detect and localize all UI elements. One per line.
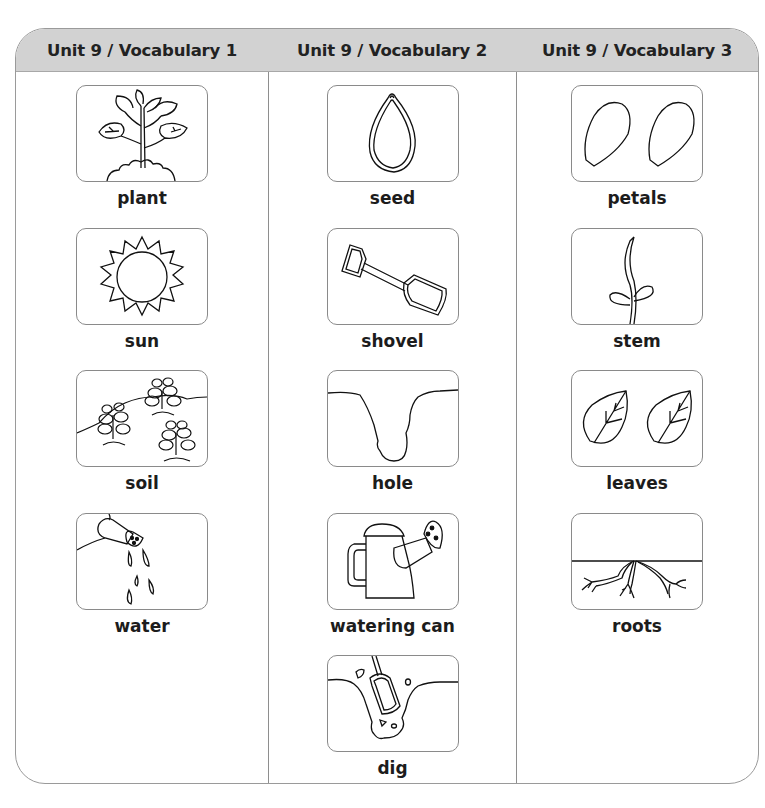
soil-icon	[77, 371, 207, 466]
vocab-word: sun	[16, 331, 268, 351]
petals-icon	[572, 86, 702, 181]
hole-icon	[328, 371, 458, 466]
vocab-word: stem	[516, 331, 758, 351]
header-row: Unit 9 / Vocabulary 1 Unit 9 / Vocabular…	[16, 29, 758, 72]
vocab-card-plant: plant	[16, 85, 268, 215]
vocab-card-shovel: shovel	[269, 228, 516, 358]
vocab-card-hole: hole	[269, 370, 516, 500]
vocab-word: leaves	[516, 473, 758, 493]
vocab-card-dig: dig	[269, 655, 516, 784]
vocab-word: petals	[516, 188, 758, 208]
roots-icon	[572, 514, 702, 609]
vocabulary-1-column: plant sun	[16, 72, 268, 783]
watering-can-icon	[328, 514, 458, 609]
vocab-card-sun: sun	[16, 228, 268, 358]
stem-icon	[572, 229, 702, 324]
vocab-card-watering-can: watering can	[269, 513, 516, 643]
leaves-icon	[572, 371, 702, 466]
vocab-word: roots	[516, 616, 758, 636]
vocab-word: water	[16, 616, 268, 636]
dig-icon	[328, 656, 458, 751]
seed-icon	[328, 86, 458, 181]
vocab-word: seed	[269, 188, 516, 208]
sun-icon	[77, 229, 207, 324]
vocab-word: shovel	[269, 331, 516, 351]
vocab-word: plant	[16, 188, 268, 208]
vocabulary-3-column: petals stem leaves	[516, 72, 758, 783]
vocabulary-2-column: seed shovel hole	[268, 72, 517, 783]
column-heading-vocabulary-2: Unit 9 / Vocabulary 2	[268, 29, 516, 71]
vocab-word: dig	[269, 758, 516, 778]
vocabulary-sheet: Unit 9 / Vocabulary 1 Unit 9 / Vocabular…	[15, 28, 759, 784]
vocab-card-seed: seed	[269, 85, 516, 215]
shovel-icon	[328, 229, 458, 324]
vocab-card-soil: soil	[16, 370, 268, 500]
vocab-word: watering can	[269, 616, 516, 636]
plant-icon	[77, 86, 207, 181]
column-heading-vocabulary-3: Unit 9 / Vocabulary 3	[516, 29, 758, 71]
vocab-card-roots: roots	[516, 513, 758, 643]
column-heading-vocabulary-1: Unit 9 / Vocabulary 1	[16, 29, 268, 71]
vocab-card-stem: stem	[516, 228, 758, 358]
water-icon	[77, 514, 207, 609]
vocab-card-water: water	[16, 513, 268, 643]
vocab-word: hole	[269, 473, 516, 493]
vocab-card-leaves: leaves	[516, 370, 758, 500]
vocab-word: soil	[16, 473, 268, 493]
vocab-card-petals: petals	[516, 85, 758, 215]
